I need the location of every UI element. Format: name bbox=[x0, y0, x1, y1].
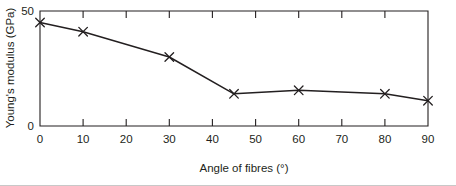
bottom-axis-ticks bbox=[83, 119, 385, 126]
x-tick-label-20: 20 bbox=[120, 133, 133, 145]
x-tick-label-60: 60 bbox=[292, 133, 305, 145]
y-axis-title: Young's modulus (GPa) bbox=[4, 7, 16, 128]
y-tick-label-0: 0 bbox=[28, 120, 34, 132]
x-axis-title: Angle of fibres (°) bbox=[200, 162, 289, 174]
x-tick-label-80: 80 bbox=[379, 133, 392, 145]
footer-divider bbox=[0, 185, 456, 186]
x-tick-label-70: 70 bbox=[335, 133, 348, 145]
x-tick-label-0: 0 bbox=[37, 133, 43, 145]
plot-frame bbox=[40, 11, 428, 126]
data-series-line bbox=[40, 23, 428, 101]
data-point-marker bbox=[165, 53, 174, 62]
x-tick-label-50: 50 bbox=[249, 133, 262, 145]
top-axis-ticks bbox=[83, 11, 385, 18]
x-tick-label-10: 10 bbox=[77, 133, 90, 145]
x-tick-label-90: 90 bbox=[422, 133, 435, 145]
x-tick-label-40: 40 bbox=[206, 133, 219, 145]
chart-figure: 50 0 0 10 20 30 40 50 60 70 80 90 Young'… bbox=[0, 0, 456, 186]
x-tick-label-30: 30 bbox=[163, 133, 176, 145]
chart-canvas: 50 0 0 10 20 30 40 50 60 70 80 90 Young'… bbox=[0, 0, 456, 186]
data-point-markers bbox=[36, 18, 433, 105]
y-tick-label-50: 50 bbox=[21, 5, 34, 17]
